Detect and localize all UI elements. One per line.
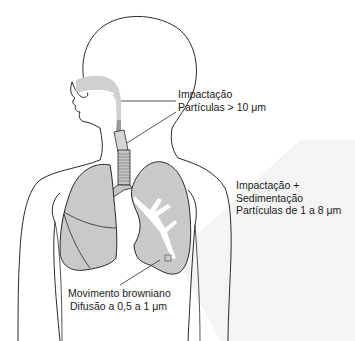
label-impaction-sedimentation: Impactação + Sedimentação Partículas de … — [236, 179, 341, 217]
upper-airway — [76, 76, 121, 132]
respiratory-deposition-diagram — [0, 0, 355, 341]
label-brownian-motion: Movimento browniano Difusão a 0,5 a 1 μm — [68, 287, 171, 312]
shade-wedge — [175, 140, 355, 341]
label-middle-line2: Sedimentação — [236, 192, 341, 205]
label-impaction-upper: Impactação Partículas > 10 μm — [178, 88, 266, 113]
label-lower-line1: Movimento browniano — [68, 287, 171, 300]
lung-left — [131, 162, 190, 274]
label-lower-line2: Difusão a 0,5 a 1 μm — [68, 300, 171, 313]
lung-right — [60, 164, 117, 270]
label-upper-line1: Impactação — [178, 88, 266, 101]
label-middle-line1: Impactação + — [236, 179, 341, 192]
label-middle-line3: Partículas de 1 a 8 μm — [236, 204, 341, 217]
label-upper-line2: Partículas > 10 μm — [178, 101, 266, 114]
